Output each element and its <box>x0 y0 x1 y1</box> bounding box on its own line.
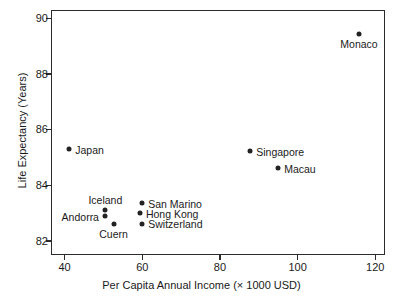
x-tick-label: 120 <box>366 262 384 273</box>
y-tick-label: 90 <box>36 13 48 24</box>
data-point[interactable] <box>137 211 142 216</box>
data-point[interactable] <box>248 149 253 154</box>
data-point-label: Switzerland <box>148 219 202 230</box>
x-tick-mark <box>375 255 376 260</box>
data-point-label: Andorra <box>62 211 99 222</box>
x-axis-title: Per Capita Annual Income (× 1000 USD) <box>0 280 403 291</box>
x-tick-label: 100 <box>288 262 306 273</box>
scatter-plot-figure: 8284868890 406080100120 JapanIcelandAndo… <box>0 0 403 300</box>
data-point[interactable] <box>103 208 108 213</box>
y-tick-label: 88 <box>36 69 48 80</box>
data-point[interactable] <box>67 147 72 152</box>
x-tick-label: 60 <box>136 262 148 273</box>
data-point-label: Cuern <box>99 229 128 240</box>
plot-area <box>51 10 385 255</box>
data-point[interactable] <box>140 221 145 226</box>
y-tick-label: 82 <box>36 236 48 247</box>
data-point-label: Iceland <box>88 195 122 206</box>
data-point-label: Macau <box>284 163 316 174</box>
x-tick-label: 40 <box>58 262 70 273</box>
x-tick-mark <box>219 255 220 260</box>
y-tick-label: 84 <box>36 180 48 191</box>
x-tick-mark <box>142 255 143 260</box>
data-point-label: Monaco <box>340 39 377 50</box>
data-point-label: Japan <box>75 144 104 155</box>
y-axis-title: Life Expectancy (Years) <box>17 46 28 216</box>
x-tick-mark <box>297 255 298 260</box>
data-point[interactable] <box>111 222 116 227</box>
data-point-label: Singapore <box>256 147 304 158</box>
y-tick-label: 86 <box>36 124 48 135</box>
data-point[interactable] <box>356 31 361 36</box>
data-point[interactable] <box>102 214 107 219</box>
x-tick-label: 80 <box>214 262 226 273</box>
data-point[interactable] <box>140 201 145 206</box>
data-point[interactable] <box>276 166 281 171</box>
x-tick-mark <box>64 255 65 260</box>
